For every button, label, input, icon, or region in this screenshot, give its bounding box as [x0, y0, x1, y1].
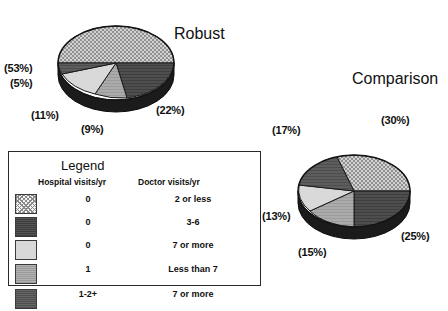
- legend-swatch-medium-gray-icon: [15, 264, 37, 284]
- comparison-label-13: (13%): [262, 210, 290, 222]
- robust-label-22: (22%): [156, 104, 184, 116]
- robust-slice-53: [58, 26, 174, 63]
- legend-row: 0 7 or more: [9, 240, 260, 262]
- legend-hospital-value: 0: [38, 217, 138, 227]
- legend-hospital-value: 1-2+: [38, 289, 138, 299]
- robust-chart-title: Robust: [174, 25, 225, 43]
- legend-row: 0 2 or less: [9, 194, 260, 216]
- legend-title: Legend: [61, 158, 104, 173]
- robust-label-5: (5%): [10, 77, 32, 89]
- legend-swatch-hatched-light-icon: [15, 194, 37, 214]
- legend-doctor-value: 2 or less: [138, 194, 248, 204]
- robust-pie-chart: [55, 14, 177, 116]
- legend-row: 0 3-6: [9, 217, 260, 239]
- comparison-label-30: (30%): [381, 114, 409, 126]
- legend-hospital-value: 1: [38, 264, 138, 274]
- comparison-label-25: (25%): [401, 230, 429, 242]
- legend-header-hospital: Hospital visits/yr: [38, 177, 106, 187]
- legend-swatch-dark-gray-icon: [15, 217, 37, 237]
- legend-doctor-value: 7 or more: [138, 240, 248, 250]
- robust-label-9: (9%): [81, 123, 103, 135]
- legend-panel: Legend Hospital visits/yr Doctor visits/…: [8, 151, 261, 286]
- legend-swatch-darker-gray-icon: [15, 289, 37, 309]
- comparison-pie-chart: [296, 143, 414, 243]
- legend-row: 1 Less than 7: [9, 264, 260, 286]
- comparison-label-15: (15%): [298, 246, 326, 258]
- legend-header-doctor: Doctor visits/yr: [138, 177, 200, 187]
- legend-row: 1-2+ 7 or more: [9, 289, 260, 311]
- robust-label-11: (11%): [31, 109, 59, 121]
- comparison-label-17: (17%): [272, 124, 300, 136]
- legend-doctor-value: 7 or more: [138, 289, 248, 299]
- legend-doctor-value: Less than 7: [138, 264, 248, 274]
- legend-hospital-value: 0: [38, 240, 138, 250]
- robust-label-53: (53%): [4, 62, 32, 74]
- legend-hospital-value: 0: [38, 194, 138, 204]
- comparison-chart-title: Comparison: [352, 70, 438, 88]
- legend-swatch-very-light-gray-icon: [15, 240, 37, 260]
- legend-doctor-value: 3-6: [138, 217, 248, 227]
